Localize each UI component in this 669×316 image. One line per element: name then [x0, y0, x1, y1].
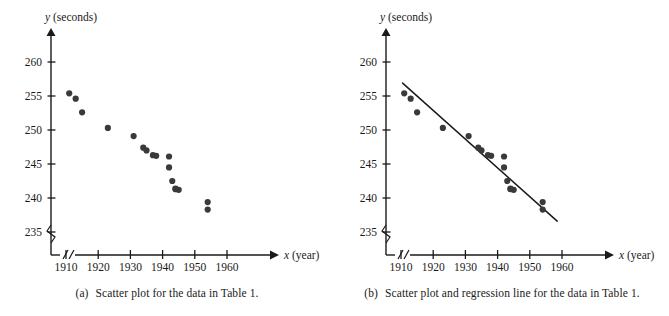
- x-axis-break-icon-2: [69, 250, 74, 259]
- data-point: [408, 96, 414, 102]
- panel-b-caption-text: Scatter plot and regression line for the…: [385, 287, 640, 299]
- data-point: [501, 164, 507, 170]
- x-tick-label: 1940: [486, 261, 509, 273]
- x-axis-arrow: [270, 251, 279, 260]
- y-tick-label: 245: [360, 158, 378, 170]
- figure-container: 235240245250255260y (seconds)19101920193…: [0, 0, 669, 316]
- panel-a-scatter-plot: 235240245250255260y (seconds)19101920193…: [0, 0, 334, 316]
- data-point: [440, 125, 446, 131]
- x-axis-arrow: [605, 251, 614, 260]
- x-axis-break-icon-2: [404, 250, 409, 259]
- x-tick-label: 1950: [183, 261, 206, 273]
- x-tick-label: 1910: [390, 261, 413, 273]
- panel-a-caption: (a)Scatter plot for the data in Table 1.: [0, 287, 334, 299]
- y-axis-title: y (seconds): [379, 11, 432, 24]
- panel-a-caption-text: Scatter plot for the data in Table 1.: [96, 287, 259, 299]
- y-tick-label: 235: [360, 226, 378, 238]
- x-tick-label: 1920: [87, 261, 110, 273]
- x-tick-label: 1950: [518, 261, 541, 273]
- y-tick-label: 240: [360, 192, 378, 204]
- y-tick-label: 250: [360, 124, 378, 136]
- data-point: [501, 153, 507, 159]
- y-axis-arrow: [382, 28, 391, 36]
- data-point: [205, 206, 211, 212]
- data-point: [166, 153, 172, 159]
- data-point: [466, 133, 472, 139]
- y-tick-label: 260: [25, 56, 43, 68]
- data-point: [166, 164, 172, 170]
- data-point: [504, 178, 510, 184]
- x-tick-label: 1920: [422, 261, 445, 273]
- data-point: [414, 109, 420, 115]
- data-point: [478, 147, 484, 153]
- x-tick-label: 1930: [454, 261, 477, 273]
- data-point: [143, 147, 149, 153]
- data-point: [401, 90, 407, 96]
- data-point: [540, 199, 546, 205]
- data-point: [131, 133, 137, 139]
- x-tick-label: 1940: [151, 261, 174, 273]
- data-point: [105, 125, 111, 131]
- panel-a-svg: 235240245250255260y (seconds)19101920193…: [0, 0, 334, 290]
- y-axis-title: y (seconds): [44, 11, 97, 24]
- y-tick-label: 250: [25, 124, 43, 136]
- panel-a-tag: (a): [75, 287, 88, 299]
- x-tick-label: 1910: [55, 261, 78, 273]
- x-axis-title: x (year): [618, 249, 655, 262]
- panel-b-svg: 235240245250255260y (seconds)19101920193…: [335, 0, 669, 290]
- data-point: [73, 96, 79, 102]
- x-axis-title: x (year): [283, 249, 320, 262]
- x-tick-label: 1960: [216, 261, 239, 273]
- y-tick-label: 245: [25, 158, 43, 170]
- x-tick-label: 1930: [119, 261, 142, 273]
- data-point: [176, 187, 182, 193]
- data-point: [153, 153, 159, 159]
- y-tick-label: 240: [25, 192, 43, 204]
- y-axis-arrow: [47, 28, 56, 36]
- y-tick-label: 235: [25, 226, 43, 238]
- data-point: [79, 109, 85, 115]
- panel-b-scatter-regression-plot: 235240245250255260y (seconds)19101920193…: [335, 0, 669, 316]
- data-point: [66, 90, 72, 96]
- data-point: [488, 153, 494, 159]
- panel-b-caption: (b)Scatter plot and regression line for …: [335, 287, 669, 299]
- data-point: [511, 187, 517, 193]
- data-point: [169, 178, 175, 184]
- data-point: [540, 206, 546, 212]
- y-tick-label: 260: [360, 56, 378, 68]
- y-tick-label: 255: [25, 90, 43, 102]
- panel-b-tag: (b): [364, 287, 378, 299]
- data-point: [205, 199, 211, 205]
- y-tick-label: 255: [360, 90, 378, 102]
- x-tick-label: 1960: [551, 261, 574, 273]
